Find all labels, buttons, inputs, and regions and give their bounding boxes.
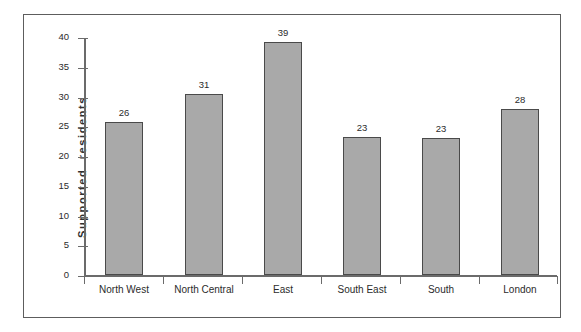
- y-tick: 0: [78, 276, 88, 277]
- x-axis-tick: [242, 276, 243, 284]
- y-tick: 25: [78, 127, 88, 128]
- x-axis-tick: [84, 276, 85, 284]
- y-tick-label: 40: [58, 31, 69, 42]
- y-tick-label: 20: [58, 150, 69, 161]
- y-tick-label: 0: [64, 269, 69, 280]
- y-tick: 40: [78, 38, 88, 39]
- y-tick-label: 35: [58, 61, 69, 72]
- x-axis-tick: [479, 276, 480, 284]
- y-tick: 10: [78, 217, 88, 218]
- bar-value-label: 39: [278, 27, 289, 38]
- y-tick-label: 10: [58, 210, 69, 221]
- bar-value-label: 23: [357, 122, 368, 133]
- bar-south[interactable]: 23: [422, 138, 460, 275]
- bar-north-west[interactable]: 26: [105, 122, 143, 276]
- x-category-label-london: London: [503, 284, 536, 295]
- x-category-label-east: East: [273, 284, 293, 295]
- bar-south-east[interactable]: 23: [343, 137, 381, 276]
- x-axis-tick: [557, 276, 558, 284]
- x-category-label-north-central: North Central: [174, 284, 233, 295]
- bar-chart-figure: Supported residents 40 35 30 25 20 15: [0, 0, 581, 332]
- bar-north-central[interactable]: 31: [185, 94, 223, 276]
- bar-value-label: 26: [119, 107, 130, 118]
- x-category-label-south: South: [428, 284, 454, 295]
- x-axis-tick: [321, 276, 322, 284]
- bar-london[interactable]: 28: [501, 109, 539, 276]
- y-tick: 5: [78, 246, 88, 247]
- x-axis-tick: [400, 276, 401, 284]
- y-tick-label: 5: [64, 239, 69, 250]
- bar-value-label: 28: [515, 94, 526, 105]
- y-tick-label: 25: [58, 120, 69, 131]
- y-tick: 30: [78, 98, 88, 99]
- y-tick: 20: [78, 157, 88, 158]
- x-category-label-south-east: South East: [338, 284, 387, 295]
- y-tick: 15: [78, 187, 88, 188]
- chart-frame: Supported residents 40 35 30 25 20 15: [23, 14, 561, 318]
- x-category-label-north-west: North West: [99, 284, 149, 295]
- y-tick-label: 15: [58, 180, 69, 191]
- y-tick: 35: [78, 68, 88, 69]
- x-axis-tick: [163, 276, 164, 284]
- y-tick-label: 30: [58, 91, 69, 102]
- plot-area: 40 35 30 25 20 15 10 5 0: [84, 38, 557, 276]
- bar-value-label: 31: [199, 79, 210, 90]
- bar-east[interactable]: 39: [264, 42, 302, 275]
- bar-value-label: 23: [436, 123, 447, 134]
